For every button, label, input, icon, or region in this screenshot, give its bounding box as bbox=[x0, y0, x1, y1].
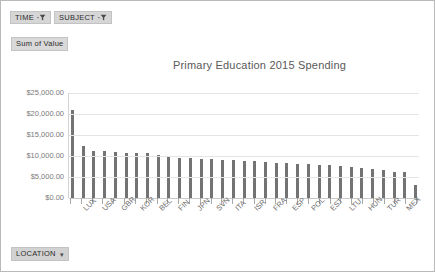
bar[interactable] bbox=[210, 159, 213, 198]
bar[interactable] bbox=[82, 146, 85, 198]
axis-field-label: LOCATION bbox=[16, 250, 56, 258]
bar[interactable] bbox=[275, 163, 278, 198]
bar[interactable] bbox=[328, 165, 331, 198]
y-axis-tick-label: $25,000.00 bbox=[26, 89, 64, 97]
gridline bbox=[69, 177, 419, 178]
gridline bbox=[69, 156, 419, 157]
bar[interactable] bbox=[318, 165, 321, 198]
value-field-button[interactable]: Sum of Value bbox=[11, 37, 68, 51]
y-axis-tick-label: $0.00 bbox=[45, 194, 64, 202]
chart-area: Primary Education 2015 Spending $0.00$5,… bbox=[6, 53, 429, 241]
bar[interactable] bbox=[371, 169, 374, 198]
gridline bbox=[69, 93, 419, 94]
bar[interactable] bbox=[221, 160, 224, 198]
slicer-label-time: TIME bbox=[15, 14, 34, 22]
gridline bbox=[69, 114, 419, 115]
bar[interactable] bbox=[71, 110, 74, 198]
slicer-button-time[interactable]: TIME bbox=[10, 11, 51, 24]
bar[interactable] bbox=[135, 153, 138, 198]
chevron-down-icon: ▾ bbox=[60, 251, 64, 258]
gridline bbox=[69, 135, 419, 136]
value-field-label: Sum of Value bbox=[16, 40, 63, 48]
bar[interactable] bbox=[350, 167, 353, 199]
bar[interactable] bbox=[307, 164, 310, 198]
x-axis-labels: LUXUSAGBRKORBELFINJPNSVNITAISRFRAESPPOLE… bbox=[68, 205, 419, 239]
x-axis-tick bbox=[232, 198, 233, 204]
y-axis-tick-label: $20,000.00 bbox=[26, 110, 64, 118]
slicer-label-subject: SUBJECT bbox=[59, 14, 95, 22]
bar[interactable] bbox=[382, 170, 385, 198]
y-axis-labels: $0.00$5,000.00$10,000.00$15,000.00$20,00… bbox=[6, 93, 64, 198]
x-axis-tick bbox=[308, 198, 309, 204]
bar[interactable] bbox=[92, 151, 95, 198]
y-axis-tick-label: $5,000.00 bbox=[31, 173, 64, 181]
bar[interactable] bbox=[200, 159, 203, 198]
bar[interactable] bbox=[393, 172, 396, 198]
filter-funnel-icon bbox=[98, 13, 107, 22]
bar[interactable] bbox=[339, 166, 342, 198]
bar[interactable] bbox=[146, 153, 149, 198]
bar-series bbox=[69, 93, 419, 198]
pivotchart-panel: TIME SUBJECT Sum of Value LOCATION ▾ Pri… bbox=[0, 0, 435, 272]
bar[interactable] bbox=[189, 158, 192, 198]
bar[interactable] bbox=[114, 152, 117, 198]
bar[interactable] bbox=[285, 163, 288, 198]
axis-field-button-location[interactable]: LOCATION ▾ bbox=[11, 247, 69, 261]
bar[interactable] bbox=[243, 161, 246, 198]
bar[interactable] bbox=[296, 164, 299, 198]
bar[interactable] bbox=[178, 158, 181, 198]
bar[interactable] bbox=[253, 161, 256, 198]
plot-area bbox=[68, 93, 419, 198]
filter-funnel-icon bbox=[37, 13, 46, 22]
bar[interactable] bbox=[232, 160, 235, 198]
bar[interactable] bbox=[360, 168, 363, 198]
bar[interactable] bbox=[103, 151, 106, 198]
chart-title: Primary Education 2015 Spending bbox=[6, 59, 429, 71]
x-axis-tick bbox=[81, 198, 82, 204]
x-axis-tick bbox=[157, 198, 158, 204]
y-axis-tick-label: $10,000.00 bbox=[26, 152, 64, 160]
bar[interactable] bbox=[264, 162, 267, 198]
y-axis-tick-label: $15,000.00 bbox=[26, 131, 64, 139]
slicer-button-subject[interactable]: SUBJECT bbox=[54, 11, 112, 24]
bar[interactable] bbox=[125, 153, 128, 198]
x-axis-tick bbox=[70, 198, 71, 204]
